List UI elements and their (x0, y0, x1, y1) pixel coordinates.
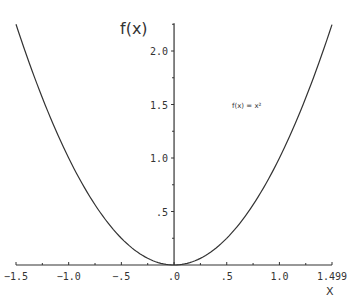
y-tick-label: 1.0 (150, 153, 168, 164)
x-tick-label: 1.0 (270, 271, 288, 282)
x-axis-label: X (326, 285, 334, 298)
y-tick-label: 1.5 (150, 100, 168, 111)
x-tick-label: .5 (221, 271, 233, 282)
legend-label: f(x) = x² (232, 102, 262, 110)
y-tick-label: .5 (156, 207, 168, 218)
x-tick-label: 1.499 (317, 271, 347, 282)
x-tick-label: −1.5 (4, 271, 28, 282)
x-tick-label: −.5 (112, 271, 130, 282)
x-tick-label: .0 (168, 271, 180, 282)
y-tick-label: 2.0 (150, 46, 168, 57)
x-tick-label: −1.0 (57, 271, 81, 282)
chart: −1.5−1.0−.5.0.51.01.499 .51.01.52.0 f(x)… (0, 0, 361, 305)
y-axis-label: f(x) (120, 19, 148, 38)
y-axis: .51.01.52.0 (150, 23, 174, 265)
